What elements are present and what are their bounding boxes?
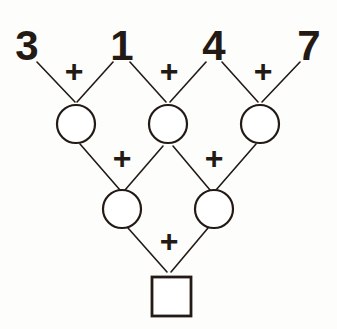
plus-operator-icon-r0c0: + bbox=[65, 53, 84, 89]
pyramid-cell-r1c0[interactable] bbox=[57, 105, 95, 143]
pyramid-cell-r3c0[interactable] bbox=[152, 277, 191, 316]
pyramid-cell-r2c1[interactable] bbox=[195, 190, 233, 228]
pyramid-row-1 bbox=[57, 105, 279, 143]
pyramid-cell-r1c2[interactable] bbox=[241, 105, 279, 143]
plus-operator-icon-r1c1: + bbox=[205, 140, 224, 176]
pyramid-cell-r0c0: 3 bbox=[15, 22, 38, 69]
plus-operator-icon-r2c0: + bbox=[160, 223, 179, 259]
pyramid-cell-r1c1[interactable] bbox=[149, 105, 187, 143]
pyramid-row-3 bbox=[152, 277, 191, 316]
plus-operator-icon-r1c0: + bbox=[113, 140, 132, 176]
connectors-row1-to-row2 bbox=[80, 144, 256, 190]
pyramid-canvas: 3 1 4 7 + + + + + bbox=[0, 0, 337, 329]
pyramid-cell-r0c2: 4 bbox=[202, 22, 226, 69]
pyramid-cell-r0c1: 1 bbox=[110, 22, 133, 69]
connector-line bbox=[222, 62, 258, 102]
pyramid-cell-r0c3: 7 bbox=[297, 22, 320, 69]
addition-pyramid-diagram: 3 1 4 7 + + + + + bbox=[0, 0, 337, 329]
operators-row2: + bbox=[160, 223, 179, 259]
plus-operator-icon-r0c1: + bbox=[160, 53, 179, 89]
pyramid-cell-r2c0[interactable] bbox=[103, 190, 141, 228]
operators-row1: + + bbox=[113, 140, 224, 176]
plus-operator-icon-r0c2: + bbox=[254, 53, 273, 89]
